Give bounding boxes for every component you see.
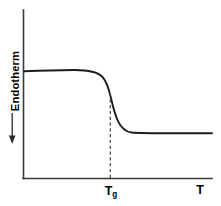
plot-canvas xyxy=(0,0,221,206)
dsc-thermogram-figure: Endotherm Tg T xyxy=(0,0,221,206)
heat-flow-curve xyxy=(25,70,213,133)
endotherm-arrow-head-icon xyxy=(9,136,16,145)
